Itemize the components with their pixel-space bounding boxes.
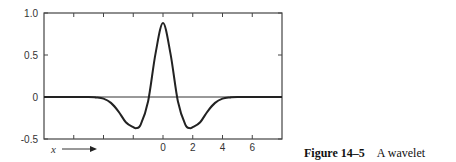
figure-caption-text: A wavelet xyxy=(377,146,425,160)
svg-text:0.5: 0.5 xyxy=(24,50,38,61)
plot-frame xyxy=(44,13,282,139)
svg-text:4: 4 xyxy=(220,142,226,153)
x-direction-arrow xyxy=(62,146,97,152)
svg-text:6: 6 xyxy=(249,142,255,153)
svg-text:0: 0 xyxy=(160,142,166,153)
axis-ticks xyxy=(44,13,282,139)
x-axis-variable: x xyxy=(51,143,56,155)
svg-text:0: 0 xyxy=(32,92,38,103)
figure-label: Figure 14–5 xyxy=(304,146,365,160)
svg-text:-0.5: -0.5 xyxy=(21,134,39,145)
wavelet-chart: 0246-0.500.51.0 xyxy=(0,0,456,162)
svg-text:2: 2 xyxy=(190,142,196,153)
wavelet-curve xyxy=(44,23,282,128)
tick-labels: 0246-0.500.51.0 xyxy=(21,8,256,153)
svg-text:1.0: 1.0 xyxy=(24,8,38,19)
figure-caption: Figure 14–5A wavelet xyxy=(304,146,425,161)
